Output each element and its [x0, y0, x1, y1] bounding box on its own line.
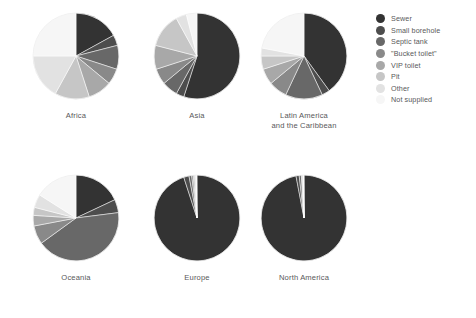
chart-legend: SewerSmall boreholeSeptic tank"Bucket to… [376, 13, 474, 106]
pie-chart-svg [260, 174, 348, 262]
pie-chart-caption-line1: Latin America [280, 111, 328, 120]
legend-item-label: Not supplied [391, 96, 432, 103]
pie-chart [260, 12, 348, 100]
pie-chart-caption-line1: Asia [189, 111, 204, 120]
pie-chart-svg [32, 12, 120, 100]
legend-swatch-icon [376, 26, 385, 35]
pie-chart [153, 12, 241, 100]
pie-chart-caption: Europe [139, 273, 255, 283]
legend-swatch-icon [376, 84, 385, 93]
legend-item: Not supplied [376, 94, 474, 106]
pie-chart-cell: Africa [18, 12, 134, 121]
legend-item: VIP toilet [376, 59, 474, 71]
legend-item-label: Septic tank [391, 38, 428, 45]
pie-chart-caption-line1: Oceania [61, 273, 90, 282]
pie-chart-svg [153, 174, 241, 262]
legend-swatch-icon [376, 72, 385, 81]
pie-chart-caption: Asia [139, 111, 255, 121]
legend-swatch-icon [376, 95, 385, 104]
pie-chart-figure: SewerSmall boreholeSeptic tank"Bucket to… [0, 0, 476, 318]
pie-chart [32, 12, 120, 100]
pie-chart-cell: Latin Americaand the Caribbean [246, 12, 362, 131]
legend-item-label: Pit [391, 73, 400, 80]
pie-chart [32, 174, 120, 262]
pie-chart-svg [153, 12, 241, 100]
pie-chart-caption-line1: North America [279, 273, 329, 282]
pie-slice [33, 13, 76, 56]
pie-chart-caption-line2: and the Caribbean [246, 121, 362, 131]
pie-chart-caption-line1: Africa [66, 111, 86, 120]
legend-item-label: Other [391, 85, 409, 92]
pie-chart-cell: Oceania [18, 174, 134, 283]
legend-item-label: Sewer [391, 15, 412, 22]
pie-chart-svg [260, 12, 348, 100]
legend-item: Pit [376, 71, 474, 83]
legend-item-label: Small borehole [391, 27, 440, 34]
pie-chart-caption-line1: Europe [184, 273, 209, 282]
legend-swatch-icon [376, 49, 385, 58]
legend-swatch-icon [376, 14, 385, 23]
pie-chart-cell: Europe [139, 174, 255, 283]
legend-swatch-icon [376, 37, 385, 46]
legend-item: Septic tank [376, 36, 474, 48]
legend-swatch-icon [376, 61, 385, 70]
pie-chart-caption: Latin Americaand the Caribbean [246, 111, 362, 131]
legend-item-label: "Bucket toilet" [391, 50, 437, 57]
pie-chart-caption: North America [246, 273, 362, 283]
pie-chart-caption: Oceania [18, 273, 134, 283]
legend-item: Small borehole [376, 25, 474, 37]
pie-chart [153, 174, 241, 262]
legend-item-label: VIP toilet [391, 62, 421, 69]
pie-chart-cell: North America [246, 174, 362, 283]
legend-item: Sewer [376, 13, 474, 25]
pie-chart [260, 174, 348, 262]
pie-chart-svg [32, 174, 120, 262]
legend-item: Other [376, 83, 474, 95]
legend-item: "Bucket toilet" [376, 48, 474, 60]
pie-chart-caption: Africa [18, 111, 134, 121]
pie-chart-cell: Asia [139, 12, 255, 121]
